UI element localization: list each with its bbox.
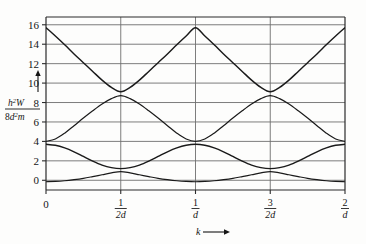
y-tick-labels: 0246810121416: [28, 19, 40, 187]
x-tick-numerator-4: 2: [343, 197, 348, 208]
up-arrow-icon: [35, 70, 40, 76]
x-axis-label: k: [196, 226, 230, 237]
x-tick-denominator-3: 2d: [265, 209, 276, 220]
x-tick-numerator-2: 1: [193, 197, 198, 208]
x-tick-label-0: 0: [43, 198, 49, 210]
x-tick-label-1: 12d: [115, 197, 127, 220]
x-tick-labels: 012d1d32d2d: [43, 197, 349, 220]
x-tick-numerator-1: 1: [118, 197, 123, 208]
y-label-numerator: h2W: [8, 97, 25, 109]
right-arrow-icon: [224, 229, 230, 234]
plot-canvas: 0246810121416 012d1d32d2d h2W 8d2m k: [0, 0, 366, 244]
y-tick-label-1: 2: [34, 155, 40, 167]
x-axis-label-text: k: [196, 226, 201, 237]
y-tick-label-6: 12: [28, 58, 39, 70]
y-label-denominator: 8d2m: [5, 111, 25, 123]
y-tick-label-7: 14: [28, 38, 40, 50]
y-tick-label-2: 4: [34, 135, 40, 147]
x-tick-numerator-3: 3: [268, 197, 273, 208]
y-tick-label-8: 16: [28, 19, 40, 31]
x-tick-label-3: 32d: [264, 197, 276, 220]
x-tick-denominator-2: d: [193, 209, 199, 220]
x-tick-denominator-4: d: [343, 209, 349, 220]
x-tick-label-2: 1d: [192, 197, 200, 220]
y-tick-label-4: 8: [34, 97, 40, 109]
y-tick-label-3: 6: [34, 116, 40, 128]
x-tick-denominator-1: 2d: [116, 209, 127, 220]
x-tick-label-text-0: 0: [43, 198, 49, 210]
x-tick-label-4: 2d: [341, 197, 349, 220]
y-tick-label-0: 0: [34, 174, 40, 186]
band-structure-figure: 0246810121416 012d1d32d2d h2W 8d2m k: [0, 0, 366, 244]
